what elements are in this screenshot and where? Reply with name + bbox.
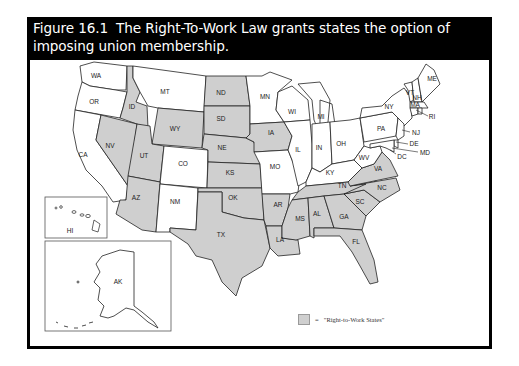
- label-la: LA: [276, 236, 285, 243]
- state-de: [394, 140, 398, 148]
- figure-frame: Figure 16.1The Right-To-Work Law grants …: [27, 17, 492, 349]
- label-mo: MO: [270, 163, 280, 170]
- label-az: AZ: [132, 194, 140, 201]
- label-ms: MS: [295, 215, 305, 222]
- state-ks: [207, 162, 262, 188]
- label-or: OR: [89, 98, 99, 105]
- label-mi: MI: [317, 113, 324, 120]
- label-hi: HI: [67, 227, 74, 234]
- label-ks: KS: [226, 169, 235, 176]
- label-mt: MT: [160, 88, 169, 95]
- label-in: IN: [316, 144, 323, 151]
- map-panel: WA OR CA ID NV MT WY UT CO AZ NM ND SD N…: [30, 60, 489, 346]
- label-tx: TX: [217, 231, 226, 238]
- label-sc: SC: [355, 198, 364, 205]
- label-nm: NM: [170, 198, 180, 205]
- label-ut: UT: [140, 152, 149, 159]
- label-ak: AK: [114, 278, 123, 285]
- label-nv: NV: [105, 142, 115, 149]
- state-fl: [314, 228, 378, 284]
- label-dc: DC: [397, 153, 407, 160]
- legend-label: "Right-to-Work States": [324, 316, 385, 323]
- label-md: MD: [420, 149, 430, 156]
- state-sd: [204, 106, 250, 138]
- label-ia: IA: [268, 129, 275, 136]
- label-ky: KY: [326, 169, 335, 176]
- legend: = "Right-to-Work States": [298, 310, 384, 329]
- label-ny: NY: [384, 103, 394, 110]
- label-va: VA: [374, 165, 383, 172]
- figure-title-line1: The Right-To-Work Law grants states the …: [116, 20, 450, 36]
- label-nh: NH: [412, 94, 422, 101]
- label-ok: OK: [228, 194, 238, 201]
- figure-number: Figure 16.1: [33, 20, 108, 36]
- us-map: WA OR CA ID NV MT WY UT CO AZ NM ND SD N…: [30, 60, 489, 346]
- label-al: AL: [313, 210, 321, 217]
- label-tn: TN: [338, 182, 347, 189]
- label-de: DE: [409, 140, 419, 147]
- label-fl: FL: [352, 238, 360, 245]
- label-id: ID: [129, 103, 136, 110]
- label-wv: WV: [359, 154, 370, 161]
- label-nc: NC: [377, 184, 387, 191]
- legend-swatch: [298, 314, 310, 325]
- state-co: [160, 146, 208, 188]
- label-me: ME: [427, 75, 437, 82]
- label-ne: NE: [217, 144, 227, 151]
- label-il: IL: [295, 146, 301, 153]
- label-sd: SD: [216, 115, 225, 122]
- label-ga: GA: [339, 213, 349, 220]
- label-wi: WI: [288, 108, 296, 115]
- label-ar: AR: [273, 201, 282, 208]
- label-ri: RI: [429, 113, 436, 120]
- state-nd: [204, 76, 250, 106]
- label-ma: MA: [410, 101, 420, 108]
- label-nj: NJ: [412, 129, 420, 136]
- legend-equals: =: [315, 316, 319, 323]
- label-co: CO: [178, 160, 188, 167]
- figure-title-line2: imposing union membership.: [33, 37, 486, 55]
- label-pa: PA: [377, 125, 386, 132]
- label-mn: MN: [260, 93, 270, 100]
- label-oh: OH: [336, 140, 346, 147]
- label-ca: CA: [78, 151, 88, 158]
- label-wy: WY: [170, 125, 181, 132]
- label-nd: ND: [216, 89, 226, 96]
- state-nm: [156, 184, 198, 232]
- label-wa: WA: [91, 72, 102, 79]
- figure-caption: Figure 16.1The Right-To-Work Law grants …: [33, 19, 486, 55]
